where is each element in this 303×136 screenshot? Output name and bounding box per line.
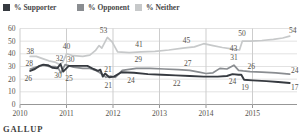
x-tick-label: 2010 [13, 109, 28, 118]
y-tick-label: 60 [8, 24, 16, 33]
point-label-opponent: 21 [104, 65, 112, 74]
y-tick-label: 10 [8, 87, 16, 96]
x-tick-label: 2013 [152, 109, 167, 118]
y-tick-label: 0 [12, 100, 16, 109]
point-label-opponent: 31 [230, 53, 238, 62]
point-label-supporter: 21 [105, 81, 113, 90]
point-label-supporter: 24 [229, 77, 237, 86]
point-label-opponent: 24 [291, 66, 299, 75]
point-label-neither: 38 [26, 47, 34, 56]
x-tick-label: 2012 [106, 109, 121, 118]
point-label-opponent: 27 [184, 59, 192, 68]
gallup-wordmark: GALLUP [3, 124, 43, 134]
point-label-supporter: 30 [67, 55, 75, 64]
x-tick-label: 2014 [199, 109, 214, 118]
trend-line-chart: 0102030405060201020112012201320142015384… [0, 0, 303, 136]
point-label-neither: 40 [63, 42, 71, 51]
point-label-supporter: 22 [173, 79, 181, 88]
point-label-opponent: 26 [247, 62, 255, 71]
gallup-trend-widget: % Supporter % Opponent % Neither 0102030… [0, 0, 303, 136]
point-label-neither: 45 [183, 36, 191, 45]
point-label-supporter: 17 [291, 83, 299, 92]
point-label-opponent: 25 [65, 74, 73, 83]
point-label-neither: 53 [100, 26, 108, 35]
point-label-supporter: 19 [241, 83, 249, 92]
point-label-opponent: 29 [135, 55, 143, 64]
point-label-neither: 43 [230, 44, 238, 53]
point-label-opponent: 30 [54, 71, 62, 80]
y-tick-label: 20 [8, 75, 16, 84]
x-tick-label: 2015 [245, 109, 260, 118]
point-label-supporter: 24 [127, 76, 135, 85]
x-tick-label: 2011 [59, 109, 74, 118]
point-label-neither: 54 [289, 26, 297, 35]
y-tick-label: 50 [8, 37, 16, 46]
y-tick-label: 30 [8, 62, 16, 71]
point-label-neither: 50 [238, 29, 246, 38]
point-label-opponent: 28 [25, 59, 33, 68]
point-label-supporter: 26 [24, 74, 32, 83]
point-label-neither: 41 [135, 40, 143, 49]
point-label-supporter: 32 [56, 54, 64, 63]
y-tick-label: 40 [8, 49, 16, 58]
